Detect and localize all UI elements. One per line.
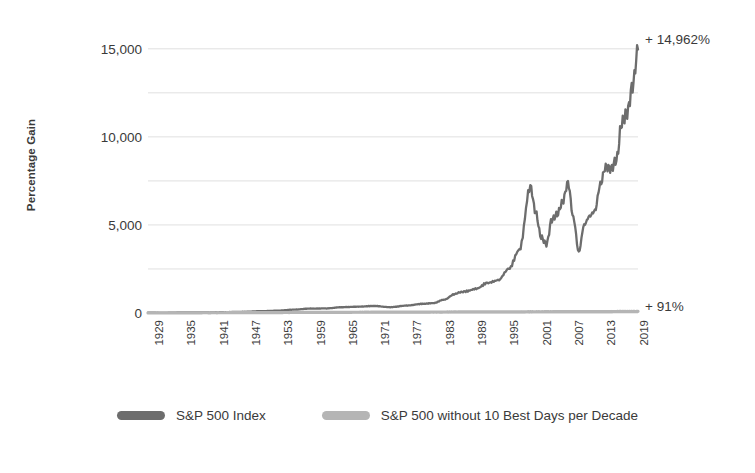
chart-container: Percentage Gain 05,00010,00015,000 19291… — [0, 0, 755, 473]
legend-item-label: S&P 500 Index — [176, 408, 266, 423]
y-axis-title-label: Percentage Gain — [25, 119, 37, 211]
x-axis-tick-label: 1929 — [153, 320, 165, 346]
y-axis-tick-label: 0 — [70, 306, 142, 321]
x-axis-tick-label: 1953 — [282, 320, 294, 346]
legend-item-label: S&P 500 without 10 Best Days per Decade — [381, 408, 638, 423]
legend-item[interactable]: S&P 500 Index — [117, 408, 266, 423]
x-axis-tick-label: 1971 — [379, 320, 391, 346]
plot-svg — [148, 40, 638, 313]
x-axis-tick-label: 1983 — [444, 320, 456, 346]
x-axis-tick-label: 2013 — [605, 320, 617, 346]
series-line-sp500 — [148, 45, 638, 313]
x-axis-tick-labels: 1929193519411947195319591965197119771983… — [148, 320, 638, 390]
y-axis-title: Percentage Gain — [14, 0, 48, 330]
annotation-primary-total: + 14,962% — [645, 32, 710, 47]
legend-color-swatch — [322, 411, 370, 420]
x-axis-tick-label: 2007 — [573, 320, 585, 346]
x-axis-tick-label: 1935 — [185, 320, 197, 346]
y-axis-tick-label: 10,000 — [70, 129, 142, 144]
chart-legend: S&P 500 IndexS&P 500 without 10 Best Day… — [0, 408, 755, 423]
legend-item[interactable]: S&P 500 without 10 Best Days per Decade — [322, 408, 638, 423]
plot-area — [148, 40, 638, 313]
x-axis-tick-label: 1995 — [508, 320, 520, 346]
legend-color-swatch — [117, 411, 165, 420]
gridlines — [148, 49, 638, 313]
series-line-sp500-without-best-days — [148, 311, 638, 313]
x-axis-tick-label: 2001 — [541, 320, 553, 346]
x-axis-tick-label: 1959 — [315, 320, 327, 346]
x-axis-tick-label: 2019 — [638, 320, 650, 346]
x-axis-tick-label: 1965 — [347, 320, 359, 346]
series-lines — [148, 45, 638, 313]
x-axis-tick-label: 1947 — [250, 320, 262, 346]
y-axis-tick-label: 15,000 — [70, 41, 142, 56]
y-axis-tick-label: 5,000 — [70, 217, 142, 232]
x-axis-tick-label: 1941 — [218, 320, 230, 346]
annotation-secondary-total: + 91% — [645, 299, 684, 314]
y-axis-tick-labels: 05,00010,00015,000 — [58, 0, 142, 473]
x-axis-tick-label: 1989 — [476, 320, 488, 346]
x-axis-tick-label: 1977 — [411, 320, 423, 346]
